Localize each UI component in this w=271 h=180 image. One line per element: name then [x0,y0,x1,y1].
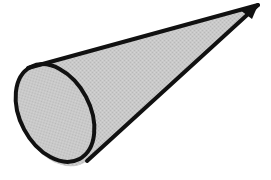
figure-canvas [0,0,271,180]
cone-illustration-svg [0,0,271,180]
